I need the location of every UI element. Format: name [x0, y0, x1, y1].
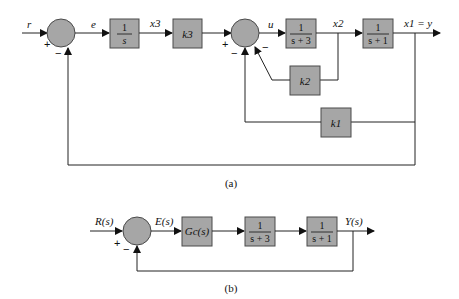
diagram-a: r + − e 1 s x3 k3 + − − u 1 s + 3: [22, 17, 440, 190]
summing-junction-1: [47, 19, 75, 47]
integrator-numerator: 1: [122, 22, 127, 33]
sum1-plus-sign: +: [44, 38, 50, 50]
k3-label: k3: [182, 28, 193, 40]
plant1-numerator: 1: [299, 22, 304, 33]
sum1-minus-sign: −: [55, 47, 61, 59]
outer-feedback-line: [68, 48, 415, 165]
k2-feedback-line: [255, 47, 290, 80]
signal-x3-label: x3: [149, 17, 161, 29]
plant2-denominator: s + 1: [368, 35, 388, 46]
caption-a: (a): [225, 177, 238, 190]
caption-b: (b): [225, 282, 238, 295]
k2-label: k2: [300, 75, 311, 87]
block-diagram-canvas: r + − e 1 s x3 k3 + − − u 1 s + 3: [0, 0, 459, 299]
plant1-b-denominator: s + 3: [250, 233, 270, 244]
sum2-plus-sign: +: [222, 38, 228, 50]
signal-u-label: u: [268, 18, 274, 30]
signal-x2-label: x2: [332, 17, 344, 29]
signal-E-label: E(s): [154, 215, 174, 228]
signal-x1-y-label: x1 = y: [403, 17, 432, 29]
sumb-minus-sign: −: [123, 243, 129, 255]
k2-feedback-pickoff: [320, 33, 338, 80]
plant2-numerator: 1: [376, 22, 381, 33]
k1-label: k1: [331, 117, 341, 129]
integrator-denominator: s: [123, 35, 127, 46]
diagram-b: R(s) + − E(s) Gc(s) 1 s + 3 1 s + 1 Y(s)…: [90, 215, 374, 295]
summing-junction-b: [123, 217, 151, 245]
signal-e-label: e: [91, 18, 96, 30]
plant1-b-numerator: 1: [258, 220, 263, 231]
signal-Y-label: Y(s): [345, 215, 363, 228]
plant2-b-numerator: 1: [320, 220, 325, 231]
plant1-denominator: s + 3: [291, 35, 311, 46]
signal-R-label: R(s): [94, 215, 114, 228]
signal-r-label: r: [27, 18, 32, 30]
plant2-b-denominator: s + 1: [312, 233, 332, 244]
summing-junction-2: [231, 19, 259, 47]
sumb-plus-sign: +: [114, 237, 120, 249]
sum2-minus-sign-k2: −: [262, 41, 268, 53]
controller-label: Gc(s): [185, 225, 210, 238]
sum2-minus-sign-k1: −: [231, 47, 237, 59]
